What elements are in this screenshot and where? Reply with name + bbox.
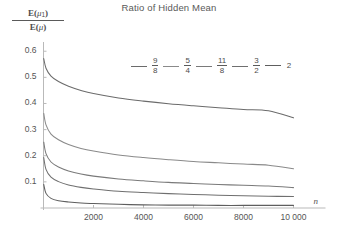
legend-item[interactable]: 32 [227,57,259,75]
legend-item[interactable]: 2 [260,62,292,70]
legend-item[interactable]: 54 [158,57,190,75]
legend-fraction-denominator: 8 [217,66,227,75]
y-tick-label: 0.1 [13,176,37,186]
chart-figure: Ratio of Hidden Mean E(μ1) E(μ) 98541183… [0,0,338,244]
legend-line-swatch [232,66,248,67]
legend-line-swatch [196,66,212,67]
x-tick-label: 8000 [221,212,267,222]
x-tick-label: 6000 [171,212,217,222]
x-axis-label: n [314,196,319,206]
legend-item[interactable]: 118 [191,57,227,75]
x-tick-label: 10 000 [271,212,317,222]
legend-item[interactable]: 98 [126,57,158,75]
legend-line-swatch [163,66,179,67]
legend-label: 2 [286,62,292,70]
legend-label: 118 [217,57,227,75]
x-tick-label: 2000 [71,212,117,222]
legend-fraction-numerator: 11 [217,57,227,66]
y-tick-label: 0.4 [13,97,37,107]
y-tick-label: 0.5 [13,71,37,81]
legend-line-swatch [265,65,281,66]
series-line-3-2 [44,158,294,197]
y-tick-label: 0.2 [13,150,37,160]
series-line-5-4 [44,113,294,168]
plot-area [0,0,338,244]
chart-legend: 9854118322 [126,54,292,78]
x-tick-label: 4000 [121,212,167,222]
legend-line-swatch [131,66,147,67]
y-tick-label: 0.6 [13,45,37,55]
y-tick-label: 0.3 [13,124,37,134]
